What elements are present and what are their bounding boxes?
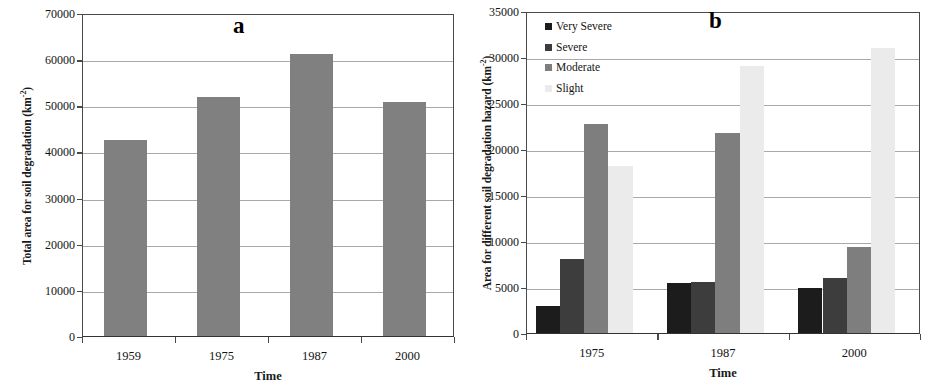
y-axis-tick-mark [77, 152, 83, 153]
panel-b-legend: Very SevereSevereModerateSlight [545, 21, 612, 103]
y-axis-tick-label: 10000 [15, 283, 75, 298]
panel-a-x-axis-title: Time [254, 369, 282, 384]
panel-a-bars [83, 15, 453, 336]
x-axis-tick-label: 1987 [711, 346, 736, 361]
bar [740, 66, 764, 333]
bar [691, 282, 715, 333]
bar [584, 124, 608, 333]
x-axis-tick-label: 1975 [579, 346, 604, 361]
y-axis-tick-label: 15000 [461, 189, 519, 204]
x-axis-tick-mark [361, 337, 362, 343]
y-axis-tick-mark [521, 150, 527, 151]
y-axis-tick-mark [521, 12, 527, 13]
y-axis-tick-mark [521, 58, 527, 59]
panel-a-y-axis-title-close: ) [21, 86, 33, 90]
x-axis-tick-mark [657, 334, 658, 340]
legend-swatch-icon [545, 85, 552, 92]
legend-item: Moderate [545, 62, 612, 74]
y-axis-tick-label: 70000 [15, 7, 75, 22]
y-axis-tick-mark [521, 104, 527, 105]
bar [871, 48, 895, 333]
y-axis-tick-label: 50000 [15, 99, 75, 114]
bar [823, 278, 847, 333]
y-axis-tick-mark [521, 242, 527, 243]
y-axis-tick-label: 25000 [461, 97, 519, 112]
y-axis-tick-label: 10000 [461, 235, 519, 250]
panel-b-plot-area: Very SevereSevereModerateSlight [526, 12, 920, 334]
panel-b-x-axis-title: Time [709, 366, 737, 381]
y-axis-tick-mark [77, 14, 83, 15]
y-axis-tick-label: 35000 [461, 5, 519, 20]
x-axis-tick-label: 2000 [842, 346, 867, 361]
panel-b-y-axis-title: Area for different soil degradation haza… [479, 56, 493, 290]
x-axis-tick-mark [82, 337, 83, 343]
x-axis-tick-label: 2000 [395, 349, 420, 364]
panel-a-label: a [233, 13, 245, 39]
legend-item: Very Severe [545, 21, 612, 33]
x-axis-tick-label: 1959 [116, 349, 141, 364]
bar [847, 247, 871, 333]
y-axis-tick-label: 0 [15, 330, 75, 345]
legend-item-label: Slight [556, 83, 583, 95]
legend-swatch-icon [545, 44, 552, 51]
bar [715, 133, 739, 333]
bar [560, 259, 584, 333]
y-axis-tick-mark [521, 288, 527, 289]
panel-b-label: b [709, 8, 722, 34]
y-axis-tick-label: 0 [461, 327, 519, 342]
x-axis-tick-mark [268, 337, 269, 343]
panel-a: Total area for soil degradation (km-2) 0… [0, 0, 466, 378]
x-axis-tick-mark [175, 337, 176, 343]
y-axis-tick-label: 5000 [461, 281, 519, 296]
x-axis-tick-mark [526, 334, 527, 340]
y-axis-tick-label: 30000 [461, 51, 519, 66]
bar [608, 166, 632, 333]
x-axis-tick-label: 1987 [302, 349, 327, 364]
y-axis-tick-mark [77, 60, 83, 61]
panel-a-y-axis-title-exponent: -2 [19, 90, 28, 96]
bar [290, 54, 333, 336]
y-axis-tick-mark [521, 196, 527, 197]
x-axis-tick-mark [454, 337, 455, 343]
bar [104, 140, 147, 336]
legend-swatch-icon [545, 64, 552, 71]
bar [798, 288, 822, 333]
y-axis-tick-label: 60000 [15, 53, 75, 68]
y-axis-tick-label: 30000 [15, 191, 75, 206]
y-axis-tick-label: 40000 [15, 145, 75, 160]
legend-item-label: Severe [556, 42, 587, 54]
legend-item: Severe [545, 42, 612, 54]
bar [536, 306, 560, 333]
legend-item-label: Moderate [556, 62, 600, 74]
y-axis-tick-label: 20000 [15, 237, 75, 252]
y-axis-tick-mark [77, 106, 83, 107]
x-axis-tick-mark [920, 334, 921, 340]
y-axis-tick-label: 20000 [461, 143, 519, 158]
legend-item: Slight [545, 83, 612, 95]
panel-a-plot-area [82, 14, 454, 337]
panel-b: Area for different soil degradation haza… [466, 0, 932, 378]
legend-item-label: Very Severe [556, 21, 612, 33]
y-axis-tick-mark [77, 199, 83, 200]
bar [667, 283, 691, 333]
y-axis-tick-mark [77, 291, 83, 292]
x-axis-tick-label: 1975 [209, 349, 234, 364]
legend-swatch-icon [545, 23, 552, 30]
bar [197, 97, 240, 336]
y-axis-tick-mark [77, 245, 83, 246]
x-axis-tick-mark [789, 334, 790, 340]
bar [383, 102, 426, 336]
